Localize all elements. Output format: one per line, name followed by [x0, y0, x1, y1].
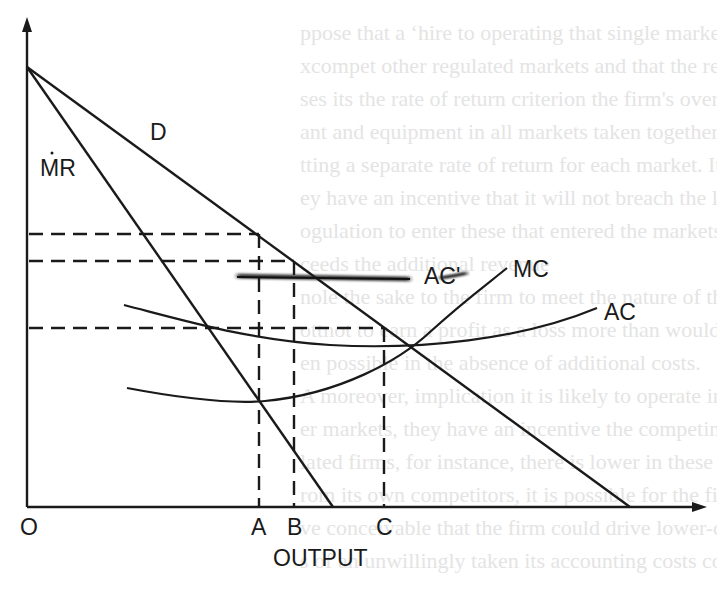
x-axis-label: OUTPUT — [273, 545, 368, 571]
x-axis — [27, 502, 707, 512]
y-axis-arrow-icon — [22, 17, 32, 32]
label-AC-prime: AC' — [424, 263, 460, 289]
mr-dot-mark — [51, 152, 54, 155]
dashed-guides — [29, 234, 384, 507]
demand-curve — [27, 67, 630, 507]
label-A: A — [251, 514, 267, 540]
x-axis-arrow-icon — [692, 502, 707, 512]
label-MC: MC — [513, 256, 549, 282]
label-C: C — [376, 514, 393, 540]
label-B: B — [287, 514, 302, 540]
label-AC: AC — [604, 299, 636, 325]
label-MR: MR — [40, 155, 76, 181]
marginal-revenue-curve — [27, 67, 333, 507]
label-origin: O — [20, 514, 38, 540]
label-D: D — [150, 119, 167, 145]
economics-diagram: D MR AC' MC AC O A B C OUTPUT — [0, 0, 717, 597]
